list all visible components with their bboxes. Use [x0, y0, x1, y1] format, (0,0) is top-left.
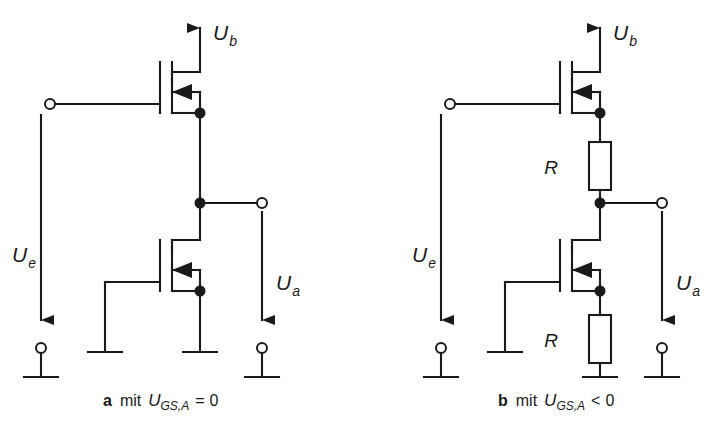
bulk-arrow-icon	[572, 84, 592, 100]
input-ground-terminal-a	[24, 343, 58, 377]
bulk-arrow-icon	[572, 262, 592, 278]
output-label-b: Ua	[676, 271, 700, 299]
upper-resistor-b	[589, 142, 611, 190]
lower-resistor-label: R	[544, 330, 558, 351]
circuit-b-group	[424, 28, 679, 377]
input-label-a: Ue	[12, 243, 36, 271]
upper-resistor-label: R	[544, 157, 558, 178]
bulk-arrow-icon	[172, 262, 192, 278]
input-terminal	[45, 99, 55, 109]
driver-transistor-a	[105, 240, 200, 350]
input-ground-terminal-b	[424, 343, 458, 377]
lower-resistor-b	[589, 315, 611, 363]
bulk-arrow-icon	[172, 84, 192, 100]
input-terminal	[445, 99, 455, 109]
caption-b: bmitUGS,A<0	[498, 391, 614, 413]
circuit-a-group	[24, 28, 279, 377]
caption-a: amitUGS,A=0	[103, 391, 219, 413]
output-ground-terminal-a	[245, 343, 279, 377]
output-terminal	[257, 198, 267, 208]
load-transistor-a	[55, 62, 200, 113]
circuit-figure: Ub Ue Ua amitUGS,A=0 Ub Ue Ua R R bmitUG…	[0, 0, 706, 438]
output-label-a: Ua	[276, 271, 300, 299]
input-label-b: Ue	[412, 243, 436, 271]
load-transistor-b	[455, 62, 600, 113]
output-terminal	[657, 198, 667, 208]
supply-label-a: Ub	[213, 21, 237, 49]
supply-label-b: Ub	[613, 21, 637, 49]
output-ground-terminal-b	[645, 343, 679, 377]
circuit-diagram-svg: Ub Ue Ua amitUGS,A=0 Ub Ue Ua R R bmitUG…	[0, 0, 706, 438]
